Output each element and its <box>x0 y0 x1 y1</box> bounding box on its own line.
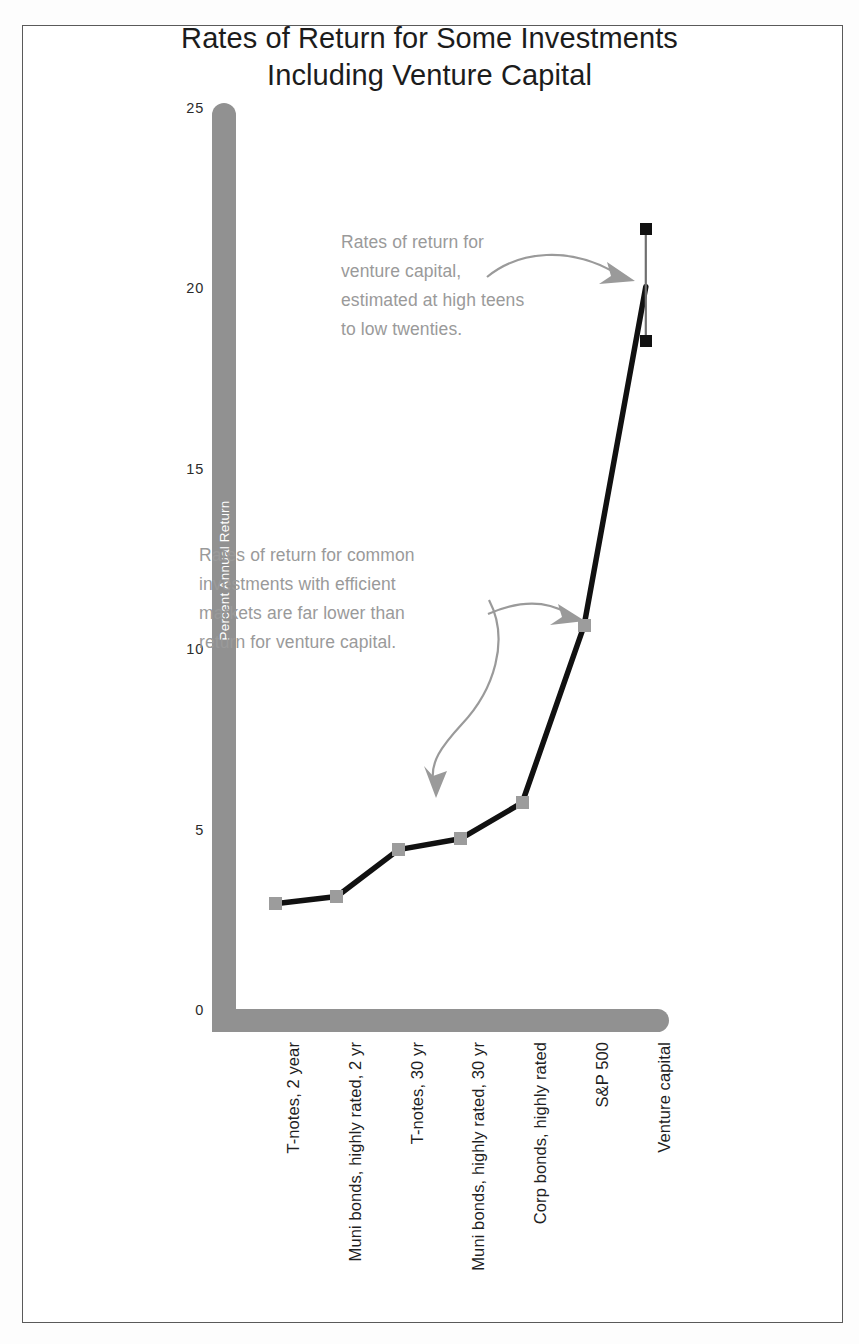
data-point-marker <box>330 890 343 903</box>
annotation-common-line-1: Rates of return for common <box>199 541 484 570</box>
data-point-marker <box>454 832 467 845</box>
annotation-venture-line-1: Rates of return for <box>341 228 571 257</box>
data-point-marker <box>578 619 591 632</box>
error-bar-cap-low <box>640 335 652 347</box>
annotation-common-line-2: investments with efficient <box>199 570 484 599</box>
annotation-venture-line-4: to low twenties. <box>341 315 571 344</box>
data-point-marker <box>392 843 405 856</box>
annotation-common-line-3: markets are far lower than <box>199 599 484 628</box>
plot-area: Percent Annual Return 0510152025 T-notes… <box>0 0 859 1344</box>
data-point-marker <box>516 796 529 809</box>
annotation-venture-line-2: venture capital, <box>341 257 571 286</box>
annotation-common-investments: Rates of return for common investments w… <box>199 541 484 657</box>
chart-page: Rates of Return for Some Investments Inc… <box>0 0 859 1344</box>
chart-svg-layer <box>0 0 859 1344</box>
annotation-venture-line-3: estimated at high teens <box>341 286 571 315</box>
error-bar-cap-high <box>640 223 652 235</box>
annotation-venture-capital: Rates of return for venture capital, est… <box>341 228 571 344</box>
data-point-marker <box>269 897 282 910</box>
annotation-common-line-4: return for venture capital. <box>199 628 484 657</box>
annotation-arrow-common-upper <box>488 603 585 625</box>
